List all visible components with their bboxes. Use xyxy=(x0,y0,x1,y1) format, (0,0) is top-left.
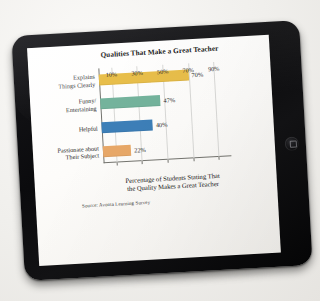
tick-mark xyxy=(116,163,117,166)
category-label: Helpful xyxy=(36,124,98,135)
tablet-device: Qualities That Make a Great Teacher Expl… xyxy=(11,20,312,281)
x-tick-label: 30% xyxy=(131,69,143,77)
x-tick-label: 10% xyxy=(106,70,118,78)
source-note: Source: Avonta Learning Survey xyxy=(82,200,150,209)
x-axis-title: Percentage of Students Stating That the … xyxy=(92,170,253,195)
tick-mark xyxy=(142,161,143,164)
home-button-square-icon xyxy=(289,140,296,147)
bar-value-label: 40% xyxy=(156,121,168,129)
plot-area: ExplainsThings Clearly70%Funny/Entertain… xyxy=(98,61,231,163)
bar-value-label: 22% xyxy=(134,146,146,154)
bar-row: Helpful40% xyxy=(101,112,168,139)
category-label: ExplainsThings Clearly xyxy=(33,73,96,91)
bar-chart: Qualities That Make a Great Teacher Expl… xyxy=(27,35,281,266)
bar xyxy=(101,119,153,133)
gridline xyxy=(213,62,219,157)
x-tick-label: 90% xyxy=(208,65,220,73)
tablet-screen[interactable]: Qualities That Make a Great Teacher Expl… xyxy=(27,35,281,266)
bar xyxy=(103,144,132,157)
tick-mark xyxy=(219,157,220,160)
x-tick-label: 50% xyxy=(157,68,169,76)
category-label-line: Helpful xyxy=(36,124,98,135)
home-button[interactable] xyxy=(284,136,299,151)
tick-mark xyxy=(193,158,194,161)
category-label: Passionate aboutTheir Subject xyxy=(37,144,100,162)
bar-value-label: 47% xyxy=(163,96,175,104)
bar xyxy=(100,95,161,109)
tick-mark xyxy=(168,160,169,163)
bar-row: Passionate aboutTheir Subject22% xyxy=(102,137,146,163)
x-tick-label: 70% xyxy=(182,66,194,74)
category-label: Funny/Entertaining xyxy=(34,97,97,115)
